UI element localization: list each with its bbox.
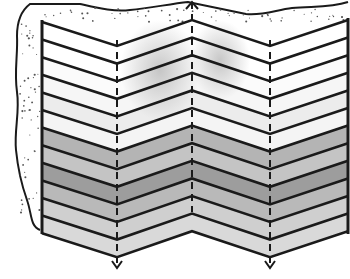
stipple-dot	[31, 101, 33, 103]
stipple-dot	[70, 10, 71, 11]
stipple-dot	[27, 159, 29, 161]
stipple-dot	[215, 10, 217, 12]
stipple-dot	[27, 77, 29, 79]
stipple-dot	[280, 20, 282, 22]
stipple-dot	[28, 96, 30, 98]
stipple-dot	[228, 13, 229, 14]
stipple-dot	[37, 116, 38, 117]
stipple-dot	[22, 203, 24, 205]
stipple-dot	[37, 128, 39, 130]
stipple-dot	[82, 17, 84, 19]
stipple-dot	[211, 16, 212, 17]
stipple-dot	[32, 37, 33, 38]
stipple-dot	[25, 25, 27, 27]
stipple-dot	[332, 15, 333, 16]
stipple-dot	[333, 16, 334, 17]
folded-strata-diagram	[0, 0, 350, 279]
stipple-dot	[23, 105, 25, 107]
stipple-dot	[21, 33, 22, 34]
stipple-dot	[118, 9, 119, 10]
stipple-dot	[24, 172, 25, 173]
stipple-dot	[53, 15, 54, 16]
stipple-dot	[22, 53, 23, 54]
stipple-dot	[46, 16, 47, 17]
stipple-dot	[145, 15, 147, 17]
stipple-dot	[111, 13, 112, 14]
stipple-dot	[24, 176, 26, 178]
smudge-shading	[120, 20, 200, 120]
stipple-dot	[269, 18, 271, 20]
stipple-dot	[311, 12, 312, 13]
stipple-dot	[28, 45, 30, 47]
stipple-dot	[119, 13, 121, 15]
stipple-dot	[183, 9, 185, 11]
stipple-dot	[86, 12, 88, 14]
stipple-dot	[317, 16, 318, 17]
stipple-dot	[23, 100, 25, 102]
stipple-dot	[35, 91, 36, 92]
stipple-dot	[304, 14, 305, 15]
stipple-dot	[229, 15, 230, 16]
stipple-dot	[94, 7, 96, 9]
stipple-dot	[137, 11, 139, 13]
stipple-dot	[20, 86, 21, 87]
stipple-dot	[24, 157, 25, 158]
stipple-dot	[21, 209, 22, 210]
stipple-dot	[60, 12, 62, 14]
stipple-dot	[21, 23, 23, 25]
stipple-dot	[220, 9, 222, 11]
stipple-dot	[30, 87, 31, 88]
stipple-dot	[29, 134, 30, 135]
stipple-dot	[192, 10, 194, 12]
stipple-dot	[22, 164, 24, 166]
stipple-dot	[44, 14, 46, 16]
stipple-dot	[328, 18, 330, 20]
stipple-dot	[342, 17, 343, 18]
stipple-dot	[249, 17, 250, 18]
stipple-dot	[29, 30, 30, 31]
stipple-dot	[39, 111, 40, 112]
stipple-dot	[243, 14, 244, 15]
stipple-dot	[169, 14, 171, 16]
stipple-dot	[81, 13, 83, 15]
stipple-dot	[176, 8, 178, 10]
stipple-dot	[32, 35, 34, 37]
stipple-dot	[34, 150, 35, 151]
stipple-dot	[310, 21, 311, 22]
stipple-dot	[34, 88, 36, 90]
stipple-dot	[28, 37, 30, 39]
stipple-dot	[36, 192, 37, 193]
stipple-dot	[114, 18, 115, 19]
stipple-dot	[29, 32, 30, 33]
stipple-dot	[24, 80, 26, 82]
stipple-dot	[21, 117, 23, 119]
stipple-dot	[137, 16, 138, 17]
stipple-dot	[19, 93, 21, 95]
figure-caption	[40, 268, 320, 279]
stipple-dot	[38, 86, 40, 88]
stipple-dot	[148, 10, 150, 12]
stipple-dot	[144, 8, 145, 9]
stipple-dot	[28, 198, 30, 200]
stipple-dot	[21, 199, 23, 201]
stipple-dot	[38, 209, 40, 211]
stipple-dot	[270, 20, 272, 22]
stipple-dot	[32, 47, 33, 48]
stipple-dot	[267, 15, 269, 17]
stipple-dot	[314, 9, 315, 10]
stipple-dot	[19, 174, 21, 176]
stipple-dot	[24, 110, 26, 112]
stipple-dot	[37, 74, 38, 75]
stipple-dot	[169, 20, 171, 22]
stipple-dot	[36, 54, 37, 55]
stipple-dot	[177, 19, 179, 21]
stipple-dot	[34, 74, 36, 76]
stipple-dot	[247, 10, 248, 11]
stipple-dot	[28, 109, 29, 110]
stipple-dot	[21, 110, 23, 112]
stipple-dot	[92, 20, 94, 22]
soil-lower-edge	[42, 10, 130, 22]
stipple-dot	[26, 35, 28, 37]
stipple-dot	[71, 12, 73, 14]
stipple-dot	[293, 10, 294, 11]
